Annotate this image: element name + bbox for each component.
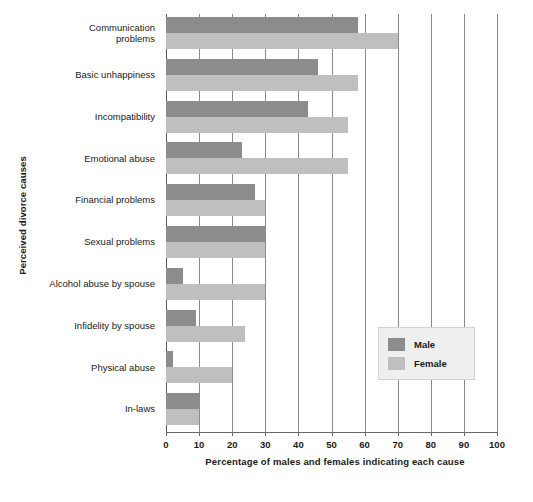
- bar-group: [166, 393, 497, 425]
- bar-female: [166, 326, 245, 342]
- x-tick-80: [431, 432, 432, 436]
- bar-male: [166, 393, 199, 409]
- bar-group: [166, 226, 497, 258]
- legend-swatch-male: [388, 338, 405, 351]
- x-tick-label-80: 80: [416, 439, 446, 450]
- x-tick-label-40: 40: [283, 439, 313, 450]
- x-tick-10: [199, 432, 200, 436]
- x-tick-50: [332, 432, 333, 436]
- x-tick-label-0: 0: [151, 439, 181, 450]
- bar-group: [166, 101, 497, 133]
- bar-female: [166, 284, 265, 300]
- bar-group: [166, 268, 497, 300]
- horizontal-bar-chart: Perceived divorce causes Communicationpr…: [0, 0, 533, 502]
- bar-male: [166, 59, 318, 75]
- bar-male: [166, 17, 358, 33]
- bar-group: [166, 142, 497, 174]
- x-tick-0: [166, 432, 167, 436]
- legend-item-male: Male: [388, 335, 474, 354]
- bar-male: [166, 268, 183, 284]
- gridline-100: [497, 14, 498, 432]
- chart-legend: MaleFemale: [378, 327, 475, 380]
- category-label: In-laws: [7, 403, 155, 415]
- category-label: Communicationproblems: [7, 22, 155, 45]
- x-axis-title: Percentage of males and females indicati…: [140, 456, 530, 467]
- bar-group: [166, 59, 497, 91]
- x-tick-label-10: 10: [184, 439, 214, 450]
- x-tick-label-50: 50: [317, 439, 347, 450]
- legend-label: Male: [414, 339, 435, 350]
- category-label: Emotional abuse: [7, 153, 155, 165]
- bar-female: [166, 409, 199, 425]
- bar-male: [166, 184, 255, 200]
- bar-female: [166, 33, 398, 49]
- x-tick-100: [497, 432, 498, 436]
- legend-item-female: Female: [388, 354, 474, 373]
- bar-male: [166, 351, 173, 367]
- category-label: Sexual problems: [7, 236, 155, 248]
- bar-group: [166, 17, 497, 49]
- x-tick-90: [464, 432, 465, 436]
- x-tick-label-20: 20: [217, 439, 247, 450]
- category-label: Basic unhappiness: [7, 69, 155, 81]
- x-tick-60: [365, 432, 366, 436]
- bar-male: [166, 101, 308, 117]
- x-tick-30: [265, 432, 266, 436]
- bar-female: [166, 158, 348, 174]
- category-label: Financial problems: [7, 194, 155, 206]
- legend-swatch-female: [388, 357, 405, 370]
- bar-male: [166, 310, 196, 326]
- x-tick-label-60: 60: [350, 439, 380, 450]
- bar-female: [166, 367, 232, 383]
- x-tick-label-70: 70: [383, 439, 413, 450]
- bar-female: [166, 117, 348, 133]
- x-tick-label-100: 100: [482, 439, 512, 450]
- category-label: Incompatibility: [7, 111, 155, 123]
- bar-female: [166, 200, 265, 216]
- bar-male: [166, 142, 242, 158]
- bar-male: [166, 226, 265, 242]
- legend-label: Female: [414, 358, 447, 369]
- bar-female: [166, 75, 358, 91]
- x-tick-70: [398, 432, 399, 436]
- bar-female: [166, 242, 265, 258]
- x-tick-label-30: 30: [250, 439, 280, 450]
- category-label: Infidelity by spouse: [7, 320, 155, 332]
- category-label: Physical abuse: [7, 362, 155, 374]
- x-tick-40: [298, 432, 299, 436]
- category-label: Alcohol abuse by spouse: [7, 278, 155, 290]
- x-tick-label-90: 90: [449, 439, 479, 450]
- category-label-column: CommunicationproblemsBasic unhappinessIn…: [8, 14, 161, 432]
- x-tick-20: [232, 432, 233, 436]
- bar-group: [166, 184, 497, 216]
